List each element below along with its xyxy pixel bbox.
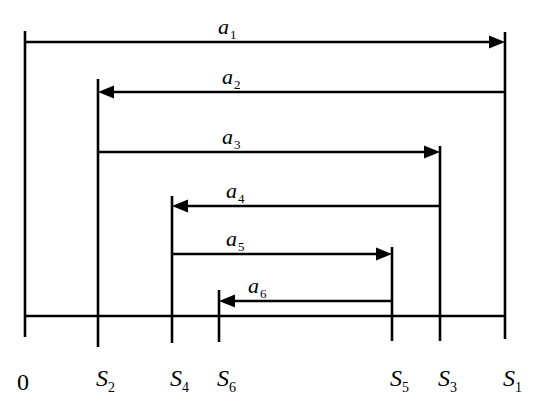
arrow-a5: a5 — [172, 226, 392, 261]
arrow-label-a3: a3 — [222, 124, 241, 152]
arrow-a1: a1 — [25, 14, 505, 49]
arrowhead-icon — [489, 36, 505, 49]
position-label-s6: S6 — [217, 365, 236, 395]
origin-label: 0 — [17, 369, 29, 395]
arrow-label-a2: a2 — [222, 64, 241, 92]
arrowhead-icon — [376, 248, 392, 261]
position-label-s3: S3 — [438, 365, 457, 395]
arrow-a6: a6 — [219, 273, 392, 308]
position-label-s1: S1 — [503, 365, 522, 395]
position-label-s2: S2 — [96, 365, 115, 395]
arrowhead-icon — [424, 146, 440, 159]
position-arrow-diagram: a1a2a3a4a5a6 0S2S4S6S5S3S1 — [0, 0, 534, 411]
position-labels: 0S2S4S6S5S3S1 — [17, 365, 522, 395]
arrowhead-icon — [219, 295, 235, 308]
arrow-a4: a4 — [172, 178, 440, 213]
arrow-label-a1: a1 — [218, 14, 237, 42]
arrow-label-a4: a4 — [226, 178, 245, 206]
position-label-s4: S4 — [170, 365, 189, 395]
arrow-a3: a3 — [98, 124, 440, 159]
arrow-a2: a2 — [98, 64, 505, 99]
arrowhead-icon — [98, 86, 114, 99]
position-label-s5: S5 — [390, 365, 409, 395]
arrowhead-icon — [172, 200, 188, 213]
arrow-label-a6: a6 — [248, 273, 267, 301]
arrow-label-a5: a5 — [226, 226, 245, 254]
